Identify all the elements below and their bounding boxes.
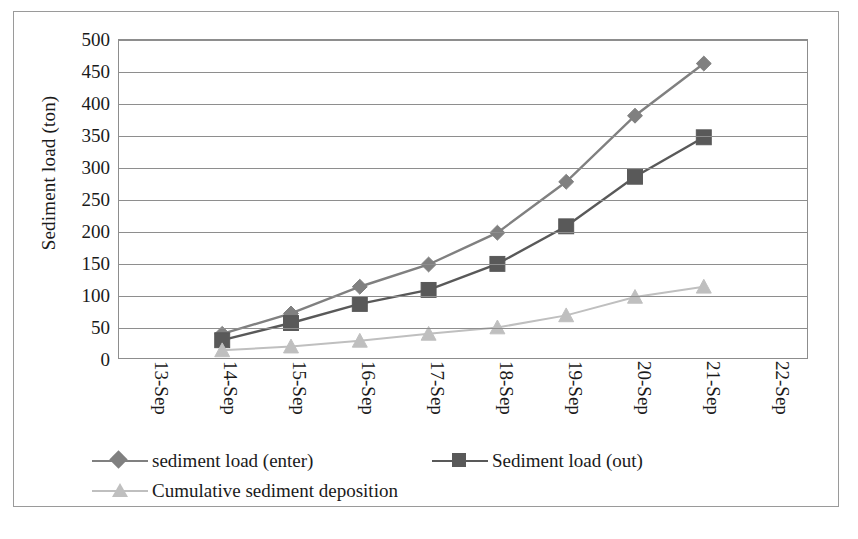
square-data-point xyxy=(628,169,643,184)
y-tick-label: 100 xyxy=(58,286,110,305)
y-axis-title: Sediment load (ton) xyxy=(38,43,60,303)
square-data-point xyxy=(352,296,367,311)
diamond-data-point xyxy=(352,279,367,294)
square-marker-icon xyxy=(432,451,488,471)
y-tick-label: 300 xyxy=(58,158,110,177)
gridline xyxy=(119,232,807,233)
legend-item[interactable]: Sediment load (out) xyxy=(432,448,643,474)
x-tick-label: 20-Sep xyxy=(633,361,655,441)
triangle-marker-icon xyxy=(92,481,148,501)
x-tick-label: 22-Sep xyxy=(771,361,793,441)
legend-label: Sediment load (out) xyxy=(492,450,643,472)
chart-legend: sediment load (enter)Sediment load (out)… xyxy=(14,444,840,506)
plot-area xyxy=(118,39,808,359)
x-tick-label: 17-Sep xyxy=(426,361,448,441)
gridline xyxy=(119,72,807,73)
x-tick-label: 21-Sep xyxy=(702,361,724,441)
chart-plot-region: Sediment load (ton) 05010015020025030035… xyxy=(14,12,840,442)
x-axis-tick-labels: 13-Sep14-Sep15-Sep16-Sep17-Sep18-Sep19-S… xyxy=(118,361,808,441)
legend-label: Cumulative sediment deposition xyxy=(152,480,398,502)
y-tick-label: 150 xyxy=(58,254,110,273)
y-tick-label: 50 xyxy=(58,318,110,337)
legend-label: sediment load (enter) xyxy=(152,450,313,472)
y-tick-label: 0 xyxy=(58,350,110,369)
legend-marker-glyph xyxy=(112,483,128,497)
y-tick-label: 250 xyxy=(58,190,110,209)
gridline xyxy=(119,104,807,105)
gridline xyxy=(119,328,807,329)
y-tick-label: 350 xyxy=(58,126,110,145)
x-tick-label: 13-Sep xyxy=(150,361,172,441)
y-tick-label: 500 xyxy=(58,30,110,49)
gridline xyxy=(119,136,807,137)
gridline xyxy=(119,168,807,169)
y-tick-label: 450 xyxy=(58,62,110,81)
diamond-marker-icon xyxy=(92,451,148,471)
x-tick-label: 19-Sep xyxy=(564,361,586,441)
chart-series-canvas xyxy=(119,40,807,358)
gridline xyxy=(119,264,807,265)
x-tick-label: 18-Sep xyxy=(495,361,517,441)
x-tick-label: 15-Sep xyxy=(288,361,310,441)
legend-marker-glyph xyxy=(109,450,127,468)
figure-caption-partial xyxy=(13,524,839,536)
gridline xyxy=(119,296,807,297)
square-data-point xyxy=(696,130,711,145)
legend-item[interactable]: Cumulative sediment deposition xyxy=(92,478,398,504)
legend-marker-glyph xyxy=(452,453,466,467)
y-tick-label: 400 xyxy=(58,94,110,113)
x-tick-label: 14-Sep xyxy=(219,361,241,441)
legend-item[interactable]: sediment load (enter) xyxy=(92,448,313,474)
y-tick-label: 200 xyxy=(58,222,110,241)
triangle-data-point xyxy=(696,279,711,293)
x-tick-label: 16-Sep xyxy=(357,361,379,441)
y-axis-tick-labels: 050100150200250300350400450500 xyxy=(58,37,110,367)
chart-figure: Sediment load (ton) 05010015020025030035… xyxy=(13,11,839,507)
gridline xyxy=(119,200,807,201)
gridline xyxy=(119,40,807,41)
